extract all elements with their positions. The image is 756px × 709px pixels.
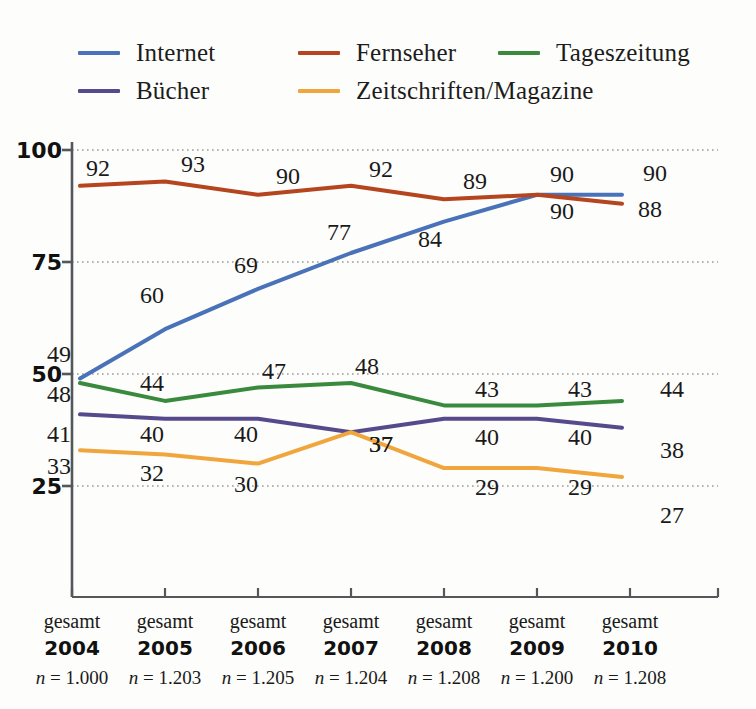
x-axis-year: 2010 (575, 634, 685, 663)
x-axis-group-2010: gesamt2010n = 1.208 (575, 609, 685, 693)
x-axis-tick-labels: gesamt2004n = 1.000gesamt2005n = 1.203ge… (0, 0, 756, 709)
x-axis-sample-size: n = 1.208 (575, 663, 685, 693)
line-chart-figure: Internet Fernseher Tageszeitung Bücher Z… (0, 0, 756, 709)
x-axis-prefix: gesamt (575, 609, 685, 634)
